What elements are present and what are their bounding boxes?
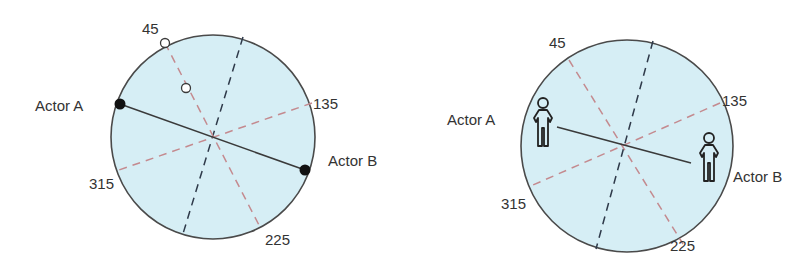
right-label-45: 45 (549, 34, 566, 51)
actor-b-dot (300, 165, 311, 176)
actor-a-dot (115, 99, 126, 110)
rim-hollow-dot (161, 39, 170, 48)
left-diagram: 45 135 225 315 Actor A Actor B (35, 20, 377, 248)
left-label-315: 315 (89, 175, 114, 192)
left-label-45: 45 (142, 20, 159, 37)
right-label-315: 315 (501, 195, 526, 212)
right-diagram: 45 135 225 315 Actor A Actor B (447, 34, 782, 254)
left-actor-a-label: Actor A (35, 97, 83, 114)
left-label-135: 135 (313, 95, 338, 112)
inner-hollow-dot (182, 84, 191, 93)
left-actor-b-label: Actor B (328, 152, 377, 169)
right-actor-a-label: Actor A (447, 111, 495, 128)
right-label-225: 225 (670, 237, 695, 254)
left-label-225: 225 (265, 231, 290, 248)
diagram-canvas: 45 135 225 315 Actor A Actor B 45 135 22… (0, 0, 811, 264)
right-label-135: 135 (722, 92, 747, 109)
right-actor-b-label: Actor B (733, 168, 782, 185)
